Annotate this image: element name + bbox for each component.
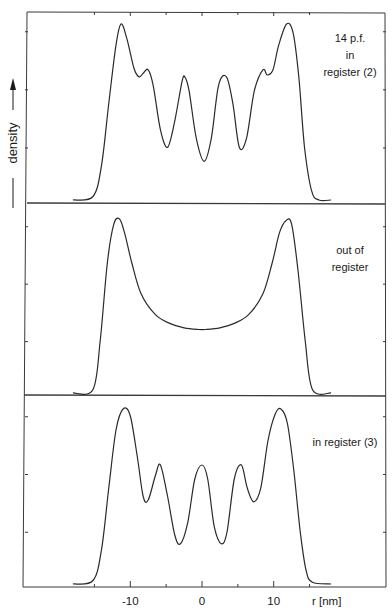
density-curve-panel-3 [73,408,331,584]
y-axis-label: density [5,122,20,164]
x-axis-tick-labels: -10010 [122,595,280,607]
density-curve-panel-1 [73,23,331,200]
density-curve-panel-2 [73,218,331,394]
x-tick-label: 0 [199,595,205,607]
panel-annotation-2-line-2: register [332,261,369,273]
chart-frame [23,12,386,587]
panel-annotation-1-line-3: register (2) [323,66,376,78]
density-profile-chart: -10010 14 p.f.inregister (2)out ofregist… [0,0,392,611]
panel-annotations: 14 p.f.inregister (2)out ofregisterin re… [313,32,378,448]
panel-annotation-3-line-1: in register (3) [313,436,378,448]
panel-annotation-2-line-1: out of [336,244,364,256]
y-axis-label-group: density [5,78,20,208]
panel-annotation-1-line-1: 14 p.f. [335,32,366,44]
panel-annotation-1-line-2: in [346,49,355,61]
x-tick-label: -10 [122,595,139,607]
tick-marks [25,12,386,587]
density-curves [73,23,331,584]
panel-divider-1 [27,203,385,204]
x-tick-label: 10 [267,595,280,607]
arrow-up-icon [10,78,16,90]
panel-divider-2 [24,395,386,396]
x-axis-label: r [nm] [312,595,341,607]
